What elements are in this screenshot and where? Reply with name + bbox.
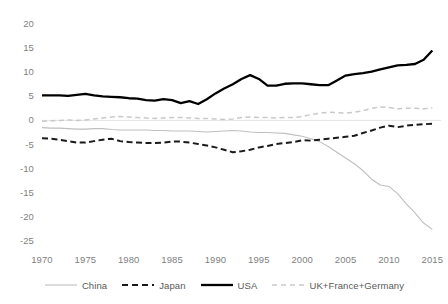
x-tick-label: 1985 bbox=[152, 255, 192, 265]
legend-label: UK+France+Germany bbox=[309, 280, 404, 291]
y-tick-label: 5 bbox=[8, 91, 34, 101]
series-lines bbox=[42, 51, 432, 230]
series-line-china bbox=[42, 128, 432, 230]
legend-swatch-line-dashed-dark bbox=[121, 280, 155, 290]
legend-item-japan[interactable]: Japan bbox=[121, 280, 185, 291]
legend-swatch-line-solid-dark bbox=[200, 280, 234, 290]
legend-label: Japan bbox=[159, 280, 185, 291]
y-tick-label: -15 bbox=[8, 188, 34, 198]
series-line-japan bbox=[42, 124, 432, 152]
legend-item-uk-france-germany[interactable]: UK+France+Germany bbox=[271, 280, 404, 291]
legend-item-usa[interactable]: USA bbox=[200, 280, 258, 291]
legend-item-china[interactable]: China bbox=[44, 280, 107, 291]
series-line-uk-france-germany bbox=[42, 107, 432, 121]
legend-swatch-line-dashed-light bbox=[271, 280, 305, 290]
series-line-usa bbox=[42, 51, 432, 105]
x-tick-label: 2005 bbox=[326, 255, 366, 265]
line-chart: 20151050-5-10-15-20-25 19701975198019851… bbox=[0, 0, 448, 304]
y-tick-label: 0 bbox=[8, 115, 34, 125]
y-tick-label: 10 bbox=[8, 67, 34, 77]
legend-label: China bbox=[82, 280, 107, 291]
x-tick-label: 1990 bbox=[196, 255, 236, 265]
x-tick-label: 1975 bbox=[65, 255, 105, 265]
y-tick-label: -10 bbox=[8, 164, 34, 174]
legend-swatch-line-solid-light bbox=[44, 280, 78, 290]
x-tick-label: 2010 bbox=[369, 255, 409, 265]
y-tick-label: 20 bbox=[8, 19, 34, 29]
x-tick-label: 1995 bbox=[239, 255, 279, 265]
x-tick-label: 2000 bbox=[282, 255, 322, 265]
y-tick-label: -25 bbox=[8, 236, 34, 246]
x-tick-label: 2015 bbox=[412, 255, 448, 265]
legend-label: USA bbox=[238, 280, 258, 291]
chart-legend: ChinaJapanUSAUK+France+Germany bbox=[0, 275, 448, 295]
y-tick-label: 15 bbox=[8, 43, 34, 53]
y-tick-label: -20 bbox=[8, 212, 34, 222]
y-tick-label: -5 bbox=[8, 140, 34, 150]
x-tick-label: 1980 bbox=[109, 255, 149, 265]
x-tick-label: 1970 bbox=[22, 255, 62, 265]
